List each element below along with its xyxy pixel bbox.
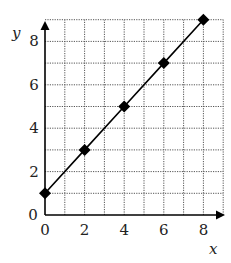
x-tick-label: 2 [80,221,90,239]
line-chart: 0246802468 y x [0,0,231,263]
y-tick-label: 0 [28,206,38,224]
y-axis-label: y [11,24,21,42]
y-axis-arrow-icon [41,21,50,30]
y-tick-label: 6 [29,76,39,94]
x-tick-label: 8 [199,221,209,239]
x-tick-label: 4 [119,221,129,239]
y-tick-label: 2 [29,163,39,181]
x-tick-label: 0 [40,221,50,239]
grid-lines [45,20,223,215]
y-tick-label: 4 [29,119,39,137]
y-tick-label: 8 [29,32,39,50]
axes [41,21,226,220]
x-tick-label: 6 [159,221,169,239]
x-axis-label: x [209,240,218,258]
